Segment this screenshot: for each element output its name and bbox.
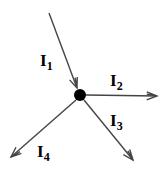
branch-i3 [84,100,133,160]
branch-i2 [86,92,157,100]
label-i3: I3 [110,112,123,132]
junction-node [74,89,86,101]
label-i4-sub: 4 [44,150,50,164]
label-i2-base: I [110,71,117,90]
label-i3-sub: 3 [117,119,123,133]
branch-line [84,100,133,160]
branch-line [49,13,77,88]
diagram-graphics [0,0,166,171]
branch-i1 [49,13,77,88]
label-i1-base: I [40,51,47,70]
label-i1-sub: 1 [47,59,53,73]
label-i3-base: I [110,111,117,130]
branch-line [86,95,157,96]
label-i2-sub: 2 [117,79,123,93]
label-i4-base: I [37,142,44,161]
kirchhoff-node-diagram: I1 I2 I3 I4 [0,0,166,171]
label-i2: I2 [110,72,123,92]
label-i1: I1 [40,52,53,72]
branch-arrows [11,13,157,160]
label-i4: I4 [37,143,50,163]
